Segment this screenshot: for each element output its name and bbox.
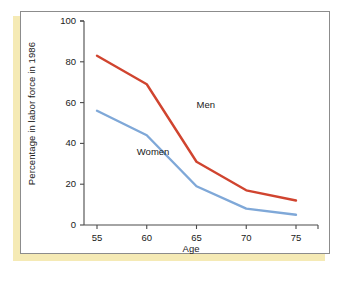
y-tick-label: 100 bbox=[50, 15, 76, 26]
figure-container: Percentage in labor force in 1986 Age 02… bbox=[0, 0, 337, 282]
y-tick-label: 40 bbox=[50, 137, 76, 148]
y-axis-label: Percentage in labor force in 1986 bbox=[26, 34, 37, 194]
x-axis-label: Age bbox=[85, 243, 297, 254]
x-tick-label: 55 bbox=[82, 232, 112, 243]
y-tick-label: 20 bbox=[50, 178, 76, 189]
x-tick-label: 65 bbox=[182, 232, 212, 243]
x-tick-label: 60 bbox=[132, 232, 162, 243]
series-label-men: Men bbox=[197, 99, 215, 110]
series-line-men bbox=[97, 56, 296, 201]
x-tick-label: 70 bbox=[231, 232, 261, 243]
y-tick-label: 60 bbox=[50, 97, 76, 108]
x-tick-label: 75 bbox=[281, 232, 311, 243]
y-tick-label: 80 bbox=[50, 56, 76, 67]
y-tick-label: 0 bbox=[50, 219, 76, 230]
series-group bbox=[97, 56, 296, 215]
series-label-women: Women bbox=[137, 146, 170, 157]
